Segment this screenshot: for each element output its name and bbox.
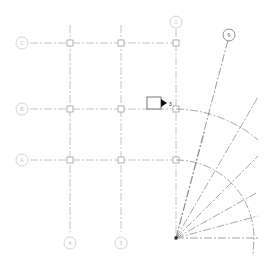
grid-label-c: C <box>20 40 24 46</box>
drawing-canvas[interactable]: C B A 4 5 1 6 3 <box>0 0 273 263</box>
column-marker[interactable] <box>118 40 124 46</box>
radial-line[interactable] <box>176 156 258 238</box>
grid-label-1: 1 <box>175 19 178 25</box>
elevation-marker-box <box>147 97 161 109</box>
radial-grid <box>176 97 259 256</box>
grid-bubbles <box>16 16 182 249</box>
radial-arc-outer[interactable] <box>176 109 258 140</box>
grid-bubble-labels: C B A 4 5 1 <box>20 19 177 246</box>
grid-label-5: 5 <box>120 240 123 246</box>
column-marker[interactable] <box>67 40 73 46</box>
radial-line[interactable] <box>176 192 258 238</box>
radial-grid-line-6[interactable] <box>176 40 228 238</box>
grid-label-4: 4 <box>69 240 72 246</box>
column-marker[interactable] <box>173 40 179 46</box>
radial-line[interactable] <box>176 216 258 238</box>
column-marker[interactable] <box>67 157 73 163</box>
radial-center-point <box>175 237 178 240</box>
grid-label-6: 6 <box>228 32 231 38</box>
vertical-grid-lines <box>70 25 176 238</box>
column-marker[interactable] <box>118 106 124 112</box>
elevation-marker[interactable]: 3 <box>147 97 172 109</box>
radial-arc-inner[interactable] <box>176 160 254 256</box>
column-marker[interactable] <box>67 106 73 112</box>
radial-line[interactable] <box>176 97 258 238</box>
column-marker[interactable] <box>118 157 124 163</box>
elevation-arrow-icon <box>161 99 167 107</box>
elevation-marker-label: 3 <box>169 101 172 107</box>
